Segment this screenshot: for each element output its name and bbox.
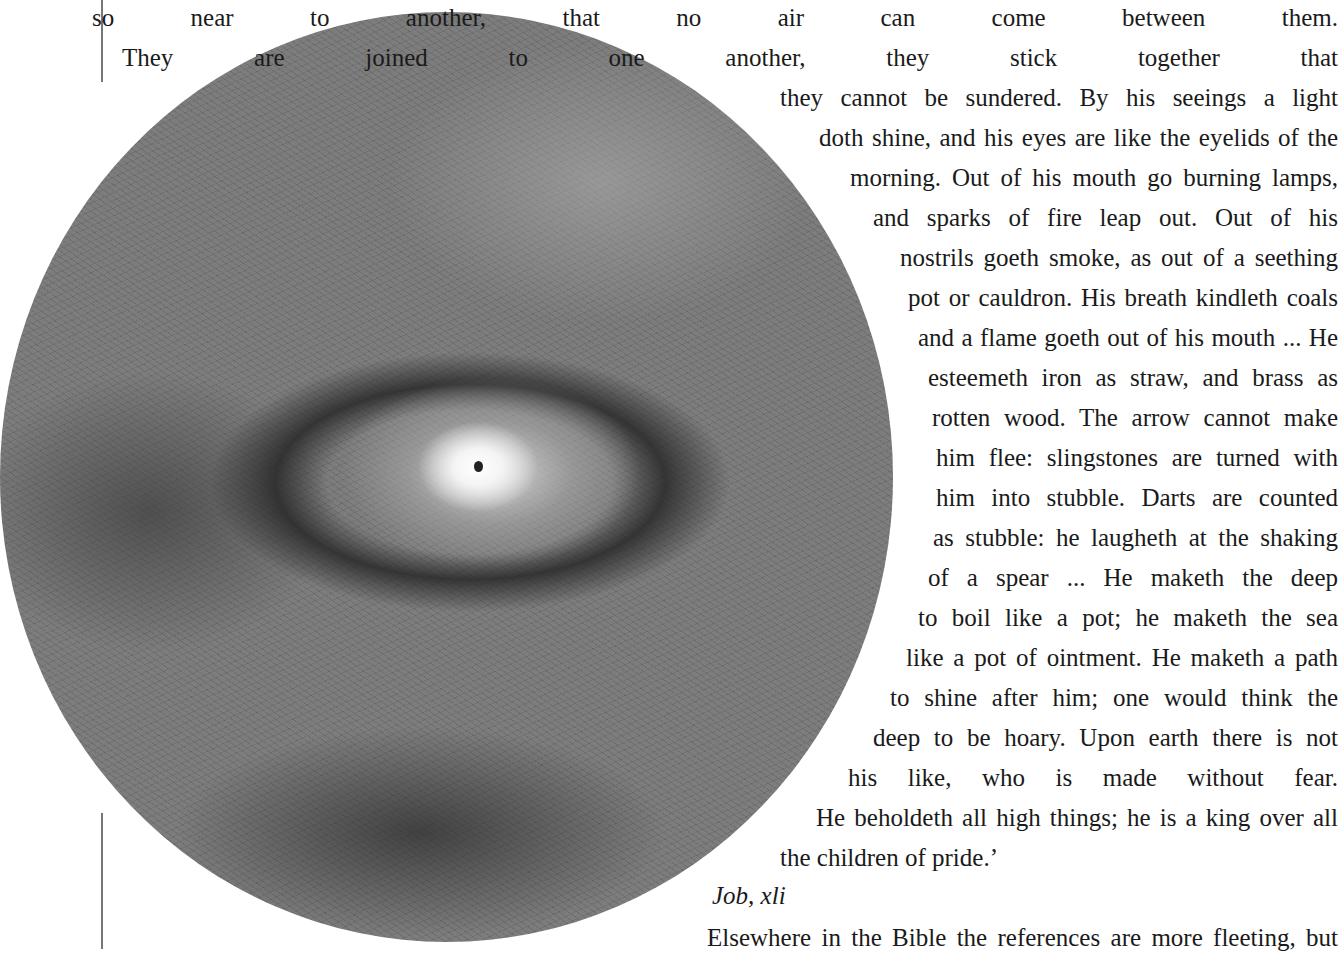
quote-line: as stubble: he laugheth at the shaking bbox=[933, 521, 1338, 555]
quote-line: deep to be hoary. Upon earth there is no… bbox=[873, 721, 1338, 755]
quote-line: him into stubble. Darts are counted bbox=[936, 481, 1338, 515]
quote-line: pot or cauldron. His breath kindleth coa… bbox=[908, 281, 1338, 315]
quote-line: his like, who is made without fear. bbox=[848, 761, 1338, 795]
eye-pupil bbox=[474, 461, 483, 472]
quote-line: rotten wood. The arrow cannot make bbox=[932, 401, 1338, 435]
quote-line: and a flame goeth out of his mouth ... H… bbox=[918, 321, 1338, 355]
quote-line: esteemeth iron as straw, and brass as bbox=[928, 361, 1338, 395]
quote-line: to boil like a pot; he maketh the sea bbox=[918, 601, 1338, 635]
quote-line: doth shine, and his eyes are like the ey… bbox=[819, 121, 1338, 155]
quote-line: him flee: slingstones are turned with bbox=[936, 441, 1338, 475]
quote-line: the children of pride.’ bbox=[780, 841, 1338, 875]
margin-rule-bottom bbox=[101, 813, 103, 949]
leviathan-eye-illustration bbox=[0, 12, 893, 942]
quote-line: so near to another, that no air can come… bbox=[92, 1, 1338, 35]
citation: Job, xli bbox=[712, 882, 786, 910]
quote-line: and sparks of fire leap out. Out of his bbox=[873, 201, 1338, 235]
quote-line: they cannot be sundered. By his seeings … bbox=[780, 81, 1338, 115]
body-paragraph-line: Elsewhere in the Bible the references ar… bbox=[707, 921, 1338, 955]
quote-line: He beholdeth all high things; he is a ki… bbox=[816, 801, 1338, 835]
quote-line: morning. Out of his mouth go burning lam… bbox=[850, 161, 1338, 195]
quote-line: to shine after him; one would think the bbox=[890, 681, 1338, 715]
quote-line: nostrils goeth smoke, as out of a seethi… bbox=[900, 241, 1338, 275]
quote-line: They are joined to one another, they sti… bbox=[122, 41, 1338, 75]
quote-line: like a pot of ointment. He maketh a path bbox=[906, 641, 1338, 675]
quote-line: of a spear ... He maketh the deep bbox=[928, 561, 1338, 595]
